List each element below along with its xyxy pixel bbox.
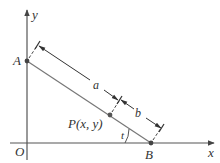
tick-b-end: [159, 124, 164, 132]
label-x-axis: x: [207, 145, 214, 160]
label-length-a: a: [93, 78, 99, 92]
label-y-axis: y: [30, 7, 38, 22]
axes: [10, 10, 214, 160]
point-b: [149, 141, 154, 146]
label-point-b: B: [145, 147, 153, 162]
label-point-p: P(x, y): [67, 116, 103, 131]
dimension-b-arrow-left: [121, 100, 134, 109]
point-p: [108, 113, 113, 118]
label-angle-t: t: [121, 129, 125, 141]
dimension-a-arrow-right: [104, 90, 118, 100]
dimension-b-arrow-right: [146, 118, 161, 128]
label-origin: O: [15, 144, 25, 159]
label-length-b: b: [135, 106, 141, 120]
point-a: [25, 59, 30, 64]
dimension-b: [121, 100, 161, 128]
label-point-a: A: [12, 53, 21, 68]
dimension-a-arrow-left: [39, 46, 90, 80]
angle-arc-t: [125, 129, 129, 143]
tick-a-start: [35, 41, 40, 49]
diagram-canvas: a b t y x O A B P(x, y): [0, 0, 220, 163]
dimension-a: [39, 46, 118, 100]
